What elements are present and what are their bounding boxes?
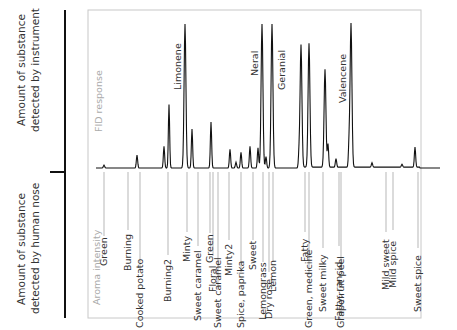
- peak-label-limonene: Limonene: [172, 43, 183, 90]
- instrument-label-line2: detected by instrument: [28, 5, 42, 135]
- aroma-descriptor-label: Burning: [122, 234, 133, 271]
- aroma-descriptor-label: Minty2: [223, 243, 234, 275]
- nose-label-line2: detected by human nose: [28, 184, 42, 314]
- instrument-side-label: Amount of substance detected by instrume…: [14, 5, 42, 135]
- instrument-label-line1: Amount of substance: [14, 5, 28, 135]
- aroma-descriptor-label: Minty: [181, 236, 192, 262]
- aroma-descriptor-label: Green, medicine: [303, 250, 314, 328]
- peak-label-neral: Neral: [249, 51, 260, 76]
- aroma-descriptor-label: Green: [98, 237, 109, 266]
- peak-label-geranial: Geranial: [276, 50, 287, 90]
- aroma-descriptor-label: Cooked potato: [134, 259, 145, 328]
- fid-response-title: FID response: [93, 70, 104, 132]
- nose-side-label: Amount of substance detected by human no…: [14, 184, 42, 314]
- aroma-descriptor-label: Lemon: [267, 260, 278, 292]
- fid-trace: [96, 23, 440, 168]
- aroma-descriptor-label: Mild spice: [387, 241, 398, 288]
- nose-label-line1: Amount of substance: [14, 184, 28, 314]
- aroma-descriptor-label: Spice, paprika: [235, 261, 246, 328]
- aroma-descriptor-label: Sweet caramel: [212, 257, 223, 328]
- aroma-descriptor-label: Burning2: [162, 259, 173, 302]
- aroma-descriptor-label: Sweet milky: [317, 254, 328, 312]
- gco-diagram: Amount of substance detected by instrume…: [0, 0, 457, 330]
- aroma-descriptor-label: Sweet spice: [412, 255, 423, 312]
- aroma-descriptor-label: Sweet caramel: [192, 250, 203, 321]
- peak-label-valencene: Valencene: [337, 54, 348, 103]
- aroma-descriptor-label: Grapefruit peel: [335, 256, 346, 328]
